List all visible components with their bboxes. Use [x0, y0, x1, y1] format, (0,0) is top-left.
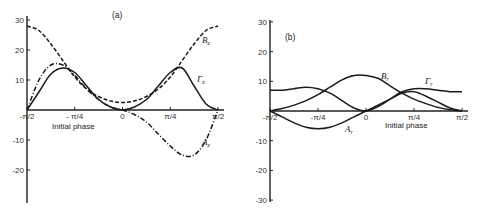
- figure: 302010-10-20-π/2- π/40π/4π/2BzΓzAz302010…: [0, 0, 484, 216]
- x-tick-label: 0: [364, 113, 369, 122]
- panel-a-label: (a): [112, 10, 122, 20]
- series-br-line: [270, 75, 462, 111]
- y-tick-label: -20: [12, 166, 24, 175]
- series-ar-line: [270, 92, 462, 129]
- y-tick-label: -30: [255, 196, 267, 205]
- series-bz-line: [27, 26, 218, 103]
- y-tick-label: 10: [258, 77, 267, 86]
- series-br-label: Br: [381, 71, 390, 82]
- x-tick-label: 0: [120, 112, 125, 121]
- y-tick-label: 30: [15, 16, 24, 25]
- series-γr-label: Γr: [424, 76, 433, 87]
- panel-a-xlabel: Initial phase: [52, 122, 95, 131]
- y-tick-label: 20: [258, 48, 267, 57]
- y-tick-label: 10: [15, 76, 24, 85]
- y-tick-label: -10: [255, 137, 267, 146]
- x-tick-label: - π/4: [66, 112, 84, 121]
- series-ar-label: Ar: [344, 124, 354, 135]
- x-tick-label: π/2: [456, 113, 469, 122]
- series-az-label: Az: [201, 137, 211, 148]
- y-tick-label: 20: [15, 46, 24, 55]
- x-tick-label: -π/4: [311, 113, 326, 122]
- panel-b-xlabel: Initial phase: [385, 121, 428, 130]
- panel-b-label: (b): [285, 32, 295, 42]
- series-γz-label: Γz: [196, 74, 205, 85]
- x-tick-label: π/4: [164, 112, 177, 121]
- panel-a-plot: 302010-10-20-π/2- π/40π/4π/2BzΓzAz: [12, 16, 224, 203]
- series-bz-label: Bz: [202, 35, 211, 46]
- series-γz-line: [27, 67, 218, 110]
- y-tick-label: 30: [258, 18, 267, 27]
- x-tick-label: π/2: [212, 112, 225, 121]
- y-tick-label: -20: [255, 166, 267, 175]
- y-tick-label: -10: [12, 136, 24, 145]
- x-tick-label: -π/2: [20, 112, 35, 121]
- panel-b-plot: 302010-10-20-30-π/2-π/40π/4π/2BrΓrAr: [255, 18, 468, 205]
